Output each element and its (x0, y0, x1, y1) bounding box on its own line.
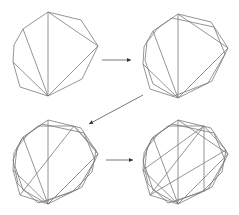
stage-3 (13, 120, 98, 204)
diagonal (48, 12, 98, 46)
diagonal (143, 126, 204, 170)
diagonal (143, 64, 178, 98)
iteration-diagram (0, 0, 239, 215)
arrowhead-icon (129, 158, 133, 162)
diagonal (153, 31, 178, 98)
arrowhead-icon (127, 58, 131, 62)
diagonal (178, 48, 228, 98)
diagonal (143, 170, 178, 204)
arrow-stage-1-to-stage-2 (102, 58, 131, 62)
outer-nonagon (13, 12, 98, 96)
diagonal (23, 137, 48, 204)
diagonal (13, 62, 48, 96)
arrow-shaft (89, 95, 143, 124)
diagonal (178, 14, 228, 48)
diagonal (23, 29, 48, 96)
arrow-stage-3-to-stage-4 (106, 158, 133, 162)
diagonal (48, 46, 98, 96)
diagonal (74, 126, 98, 154)
stage-2 (143, 14, 228, 98)
stages-group (13, 12, 228, 204)
arrows-group (89, 58, 143, 162)
diagonal (178, 154, 228, 204)
diagonal (178, 120, 228, 154)
stage-4 (143, 120, 228, 204)
inner-polygon (145, 18, 225, 96)
diagonal (48, 154, 98, 204)
arrow-stage-2-to-stage-3 (89, 95, 143, 124)
diagonal (13, 170, 48, 204)
stage-1 (13, 12, 98, 96)
